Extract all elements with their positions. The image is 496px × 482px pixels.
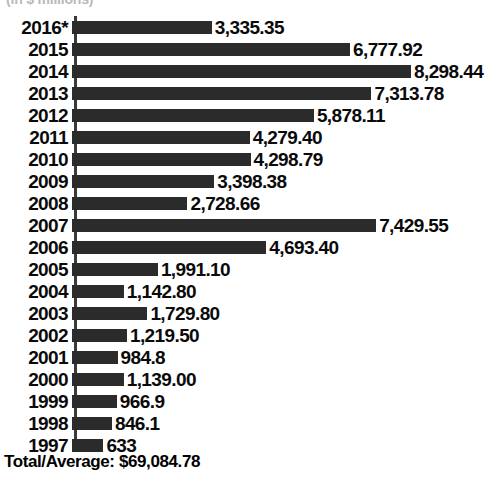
- chart-row: 1998846.1: [0, 412, 496, 434]
- chart-row: 20137,313.78: [0, 82, 496, 104]
- bar-value-label: 984.8: [118, 348, 166, 367]
- bar: [72, 175, 214, 188]
- bar-value-label: 1,991.10: [158, 260, 230, 279]
- bar: [72, 351, 118, 364]
- category-label: 2006: [0, 238, 72, 257]
- bar-value-label: 3,335.35: [212, 18, 284, 37]
- chart-row: 20156,777.92: [0, 38, 496, 60]
- bar-track: 846.1: [72, 412, 496, 434]
- chart-row: 20021,219.50: [0, 324, 496, 346]
- chart-row: 20093,398.38: [0, 170, 496, 192]
- bar-chart: (in $ millions) 2016*3,335.3520156,777.9…: [0, 0, 496, 482]
- bar-value-label: 7,313.78: [371, 84, 443, 103]
- bar-track: 966.9: [72, 390, 496, 412]
- bar-value-label: 846.1: [112, 414, 160, 433]
- bar: [72, 373, 124, 386]
- bar-value-label: 1,219.50: [127, 326, 199, 345]
- bar-track: 7,313.78: [72, 82, 496, 104]
- category-label: 2013: [0, 84, 72, 103]
- bar: [72, 21, 212, 34]
- chart-row: 2001984.8: [0, 346, 496, 368]
- bar-track: 3,335.35: [72, 16, 496, 38]
- category-label: 2001: [0, 348, 72, 367]
- bar-value-label: 4,279.40: [250, 128, 322, 147]
- bar-track: 4,693.40: [72, 236, 496, 258]
- bar-track: 984.8: [72, 346, 496, 368]
- bar: [72, 395, 117, 408]
- category-label: 2012: [0, 106, 72, 125]
- bar-value-label: 2,728.66: [187, 194, 259, 213]
- bar-track: 4,298.79: [72, 148, 496, 170]
- category-label: 2005: [0, 260, 72, 279]
- bar-track: 6,777.92: [72, 38, 496, 60]
- chart-row: 20041,142.80: [0, 280, 496, 302]
- chart-row: 20125,878.11: [0, 104, 496, 126]
- chart-row: 20077,429.55: [0, 214, 496, 236]
- bar: [72, 307, 147, 320]
- category-label: 2004: [0, 282, 72, 301]
- chart-subtitle: (in $ millions): [6, 0, 93, 7]
- bar-track: 1,729.80: [72, 302, 496, 324]
- bar: [72, 439, 103, 452]
- category-label: 1998: [0, 414, 72, 433]
- category-label: 2009: [0, 172, 72, 191]
- bar: [72, 197, 187, 210]
- bar-value-label: 1,729.80: [147, 304, 219, 323]
- bar-track: 5,878.11: [72, 104, 496, 126]
- bar-value-label: 1,139.00: [124, 370, 196, 389]
- chart-row: 20082,728.66: [0, 192, 496, 214]
- bar-track: 1,991.10: [72, 258, 496, 280]
- bar-value-label: 3,398.38: [214, 172, 286, 191]
- chart-row: 20064,693.40: [0, 236, 496, 258]
- bar-track: 1,219.50: [72, 324, 496, 346]
- bar: [72, 417, 112, 430]
- bar-value-label: 4,693.40: [266, 238, 338, 257]
- category-label: 2014: [0, 62, 72, 81]
- chart-plot-area: 2016*3,335.3520156,777.9220148,298.44201…: [0, 16, 496, 448]
- bar-track: 2,728.66: [72, 192, 496, 214]
- chart-row: 20051,991.10: [0, 258, 496, 280]
- bar-value-label: 4,298.79: [251, 150, 323, 169]
- category-label: 2002: [0, 326, 72, 345]
- category-label: 2008: [0, 194, 72, 213]
- chart-row: 2016*3,335.35: [0, 16, 496, 38]
- category-label: 2000: [0, 370, 72, 389]
- bar-track: 1,139.00: [72, 368, 496, 390]
- bar: [72, 219, 376, 232]
- chart-row: 1999966.9: [0, 390, 496, 412]
- category-label: 2003: [0, 304, 72, 323]
- bar-value-label: 6,777.92: [350, 40, 422, 59]
- bar-value-label: 7,429.55: [376, 216, 448, 235]
- bar-track: 4,279.40: [72, 126, 496, 148]
- category-label: 2016*: [0, 18, 72, 37]
- bar: [72, 285, 124, 298]
- bar: [72, 109, 314, 122]
- total-average-label: Total/Average: $69,084.78: [4, 452, 200, 472]
- category-label: 1999: [0, 392, 72, 411]
- bar: [72, 131, 250, 144]
- bar: [72, 43, 350, 56]
- chart-row: 20114,279.40: [0, 126, 496, 148]
- bar-track: 7,429.55: [72, 214, 496, 236]
- chart-row: 20031,729.80: [0, 302, 496, 324]
- category-label: 2011: [0, 128, 72, 147]
- chart-row: 20148,298.44: [0, 60, 496, 82]
- category-label: 2010: [0, 150, 72, 169]
- bar: [72, 329, 127, 342]
- bar: [72, 263, 158, 276]
- chart-row: 20104,298.79: [0, 148, 496, 170]
- chart-row: 20001,139.00: [0, 368, 496, 390]
- bar-track: 1,142.80: [72, 280, 496, 302]
- bar-value-label: 8,298.44: [411, 62, 483, 81]
- category-label: 2007: [0, 216, 72, 235]
- bar: [72, 153, 251, 166]
- bar: [72, 241, 266, 254]
- bar: [72, 87, 371, 100]
- category-label: 2015: [0, 40, 72, 59]
- bar-track: 8,298.44: [72, 60, 496, 82]
- bar-value-label: 966.9: [117, 392, 165, 411]
- bar-track: 3,398.38: [72, 170, 496, 192]
- bar-value-label: 5,878.11: [314, 106, 385, 125]
- bar-value-label: 1,142.80: [124, 282, 196, 301]
- bar: [72, 65, 411, 78]
